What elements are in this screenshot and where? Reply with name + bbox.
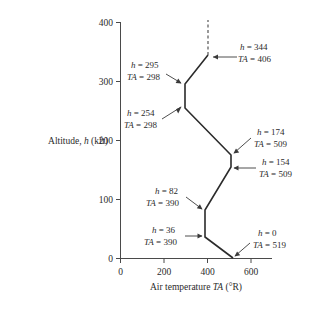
annotation-h295-ta: TA = 298 [127, 72, 160, 82]
annot-h344-ta-var: TA [238, 54, 248, 64]
y-tick-label-100: 100 [99, 195, 114, 205]
annot-h82-ta-eq: = 390 [156, 198, 180, 208]
annot-h254-ta-eq: = 298 [134, 120, 158, 130]
annot-h254-h-eq: = 254 [132, 108, 156, 118]
annot-h0-ta-eq: = 519 [263, 240, 287, 250]
annot-h174-h-eq: = 174 [262, 127, 286, 137]
x-tick-label-600: 600 [244, 267, 259, 277]
x-axis-title-post: (°R) [223, 282, 242, 293]
y-tick-label-300: 300 [99, 77, 114, 87]
x-axis-title-var: TA [213, 282, 224, 292]
annotation-h154-ta: TA = 509 [259, 169, 292, 179]
annotation-h36-ta: TA = 390 [144, 237, 177, 247]
x-tick-label-400: 400 [200, 267, 215, 277]
annot-h295-ta-var: TA [127, 72, 137, 82]
annot-h82-h-eq: = 82 [160, 186, 179, 196]
annot-h254-ta-var: TA [124, 120, 134, 130]
annot-h36-ta-var: TA [144, 237, 154, 247]
annotation-h154-h: h = 154 [262, 157, 290, 167]
annot-h174-ta-eq: = 509 [264, 139, 288, 149]
annotation-h344-ta: TA = 406 [238, 54, 271, 64]
annotation-h174-h: h = 174 [257, 127, 285, 137]
annotation-h254-h: h = 254 [127, 108, 155, 118]
annotation-h295-h: h = 295 [131, 60, 159, 70]
annotation-h82-ta: TA = 390 [146, 198, 179, 208]
annot-h295-h-eq: = 295 [136, 60, 160, 70]
annot-h344-h-eq: = 344 [245, 42, 269, 52]
y-tick-label-400: 400 [99, 18, 114, 28]
annot-h0-ta-var: TA [253, 240, 263, 250]
annot-h344-ta-eq: = 406 [248, 54, 272, 64]
y-axis-title: Altitude, h (kft) [48, 136, 108, 147]
annot-h154-h-eq: = 154 [267, 157, 291, 167]
altitude-vs-air-temperature-chart: 400 300 200 100 0 0 200 400 600 Altitude… [0, 0, 319, 311]
annotation-h36-h: h = 36 [152, 225, 176, 235]
annotation-h174-ta: TA = 509 [254, 139, 287, 149]
annot-h295-ta-eq: = 298 [137, 72, 161, 82]
y-axis-title-pre: Altitude, [48, 136, 84, 146]
annot-h36-ta-eq: = 390 [154, 237, 178, 247]
annot-h154-ta-var: TA [259, 169, 269, 179]
annot-h0-h-eq: = 0 [263, 228, 278, 238]
x-axis-title: Air temperature TA (°R) [150, 282, 242, 293]
annotation-h0-ta: TA = 519 [253, 240, 286, 250]
y-axis-title-post: (kft) [89, 136, 108, 147]
annotation-h0-h: h = 0 [258, 228, 277, 238]
annot-h154-ta-eq: = 509 [269, 169, 293, 179]
annotation-h82-h: h = 82 [155, 186, 178, 196]
chart-background [0, 0, 319, 311]
annotation-h254-ta: TA = 298 [124, 120, 157, 130]
x-axis-title-pre: Air temperature [150, 282, 213, 292]
annot-h82-ta-var: TA [146, 198, 156, 208]
x-tick-label-0: 0 [118, 267, 123, 277]
x-tick-label-200: 200 [157, 267, 172, 277]
y-tick-label-0: 0 [108, 254, 113, 264]
annotation-h344-h: h = 344 [240, 42, 268, 52]
annot-h174-ta-var: TA [254, 139, 264, 149]
annot-h36-h-eq: = 36 [157, 225, 176, 235]
